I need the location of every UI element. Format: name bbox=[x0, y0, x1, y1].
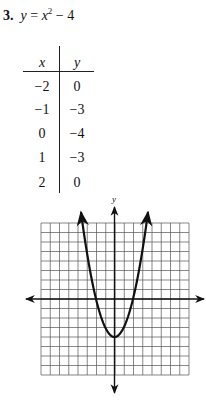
y-axis-label: y bbox=[111, 194, 116, 204]
coordinate-graph: y bbox=[0, 0, 206, 412]
